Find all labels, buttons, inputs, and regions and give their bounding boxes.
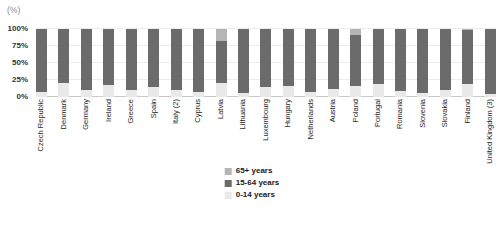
bar-segment [103,85,114,97]
bar [193,29,204,97]
bar-segment [171,90,182,97]
bar [485,29,496,97]
x-axis-label-text: Poland [352,99,360,122]
bar-segment [103,29,114,85]
y-tick-label: 0% [0,93,28,101]
legend-label: 15-64 years [236,179,280,187]
bar-segment [462,30,473,84]
legend-label: 65+ years [236,167,273,175]
bar-segment [58,83,69,97]
bar [238,29,249,97]
x-axis-label: Slovakia [440,99,451,164]
bar-segment [81,90,92,97]
x-axis-label: Finland [462,99,473,164]
legend-label: 0-14 years [236,191,275,199]
x-axis-label: Austria [328,99,339,164]
bar-segment [485,94,496,97]
legend-swatch [225,180,232,187]
bar [126,29,137,97]
y-tick-label: 25% [0,76,28,84]
x-axis-label-text: Cyprus [194,99,202,123]
x-axis-label-text: Slovakia [441,99,449,127]
x-axis-label-text: Netherlands [307,99,315,139]
legend: 65+ years15-64 years0-14 years [225,167,280,199]
bar-segment [305,92,316,97]
x-axis-label: Netherlands [305,99,316,164]
x-axis-label-text: Germany [82,99,90,130]
bar-segment [216,41,227,83]
bar [103,29,114,97]
x-axis-label: Luxembourg [260,99,271,164]
legend-item: 0-14 years [225,191,280,199]
y-tick-label: 50% [0,59,28,67]
bar-segment [216,29,227,41]
legend-item: 15-64 years [225,179,280,187]
bar [417,29,428,97]
x-axis-label-text: Romania [396,99,404,129]
x-axis-label-text: Denmark [60,99,68,129]
bar-segment [373,84,384,97]
legend-item: 65+ years [225,167,280,175]
x-axis-label-text: Greece [127,99,135,124]
bar-segment [440,29,451,90]
x-axis-label-text: Latvia [217,99,225,119]
bar-segment [148,87,159,97]
bar-segment [440,90,451,97]
x-axis-label: Poland [350,99,361,164]
x-axis-label-text: Portugal [374,99,382,127]
bar-segment [193,92,204,97]
bar [148,29,159,97]
x-axis-label: Latvia [216,99,227,164]
plot-area: 0%25%50%75%100% [36,29,496,97]
bar-segment [395,91,406,97]
x-axis-label-text: Hungary [284,99,292,127]
bar [440,29,451,97]
bar [305,29,316,97]
bar-segment [350,86,361,97]
x-axis-label-text: Italy (2) [172,99,180,124]
bar [373,29,384,97]
bar-segment [260,87,271,97]
bar [283,29,294,97]
bar [171,29,182,97]
x-axis-label-text: Luxembourg [262,99,270,141]
x-axis-label-text: Lithuania [239,99,247,129]
bar-segment [148,29,159,87]
x-axis-label: Lithuania [238,99,249,164]
bar-segment [238,93,249,97]
legend-swatch [225,168,232,175]
bar-segment [36,29,47,92]
x-axis-label: Denmark [58,99,69,164]
bar-segment [193,29,204,92]
x-axis-label: Slovenia [417,99,428,164]
x-axis-label-text: Finland [464,99,472,124]
bar-segment [36,92,47,97]
bar [462,29,473,97]
bar-segment [485,29,496,94]
bar-segment [417,29,428,93]
bar [58,29,69,97]
bars [36,29,496,97]
y-axis-ticks: 0%25%50%75%100% [0,29,31,97]
y-tick-label: 75% [0,42,28,50]
bar [36,29,47,97]
x-axis-label: Hungary [283,99,294,164]
bar-segment [395,29,406,91]
x-axis-label-text: United Kingdom (3) [486,99,494,164]
bar-segment [328,89,339,97]
x-axis-label: Italy (2) [171,99,182,164]
x-axis-label: Czech Republic [36,99,47,164]
bar-segment [238,29,249,93]
legend-swatch [225,192,232,199]
x-axis-label-text: Ireland [105,99,113,122]
bar-segment [171,29,182,90]
x-axis-label: United Kingdom (3) [485,99,496,164]
x-axis-label-text: Spain [150,99,158,118]
bar-segment [283,86,294,97]
x-axis-label-text: Slovenia [419,99,427,128]
x-axis-labels: Czech RepublicDenmarkGermanyIrelandGreec… [36,99,496,164]
bar-segment [462,84,473,97]
bar-segment [283,29,294,86]
x-axis-label: Portugal [373,99,384,164]
bar-segment [305,29,316,92]
